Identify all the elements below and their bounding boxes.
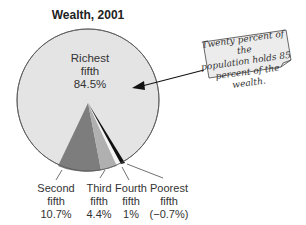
label-third: Thirdfifth4.4%	[82, 182, 116, 221]
label-poorest: Poorestfifth(−0.7%)	[148, 182, 190, 221]
label-fourth: Fourthfifth1%	[114, 182, 148, 221]
label-second: Secondfifth10.7%	[32, 182, 80, 221]
label-richest: Richestfifth84.5%	[62, 52, 118, 91]
